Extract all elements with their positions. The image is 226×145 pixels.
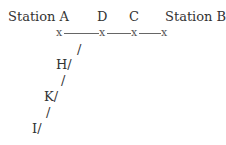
branch-slash-2: / — [61, 74, 65, 87]
marker-x-d: x — [99, 27, 105, 38]
label-c: C — [129, 10, 139, 23]
label-station-a: Station A — [8, 10, 69, 23]
marker-x-a: x — [56, 27, 62, 38]
label-station-b: Station B. — [165, 10, 226, 23]
marker-x-c: x — [131, 27, 137, 38]
branch-slash-3: / — [46, 106, 50, 119]
marker-x-b: x — [161, 27, 167, 38]
label-h: H/ — [56, 58, 72, 71]
label-k: K/ — [44, 90, 58, 103]
track-segment-a-d — [64, 33, 99, 34]
track-segment-d-c — [107, 33, 131, 34]
track-segment-c-b — [139, 33, 161, 34]
label-i: I/ — [32, 122, 42, 135]
label-d: D — [97, 10, 107, 23]
branch-slash-1: / — [77, 43, 81, 56]
